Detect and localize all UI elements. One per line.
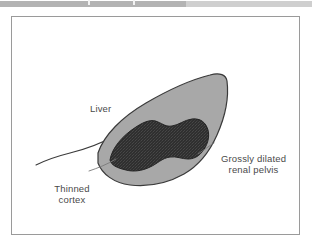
label-thinned-line2: cortex: [43, 194, 101, 205]
label-grossly-line1: Grossly dilated: [221, 153, 286, 164]
label-grossly-dilated-renal-pelvis: Grossly dilated renal pelvis: [221, 153, 286, 175]
strip-tick-1: [88, 0, 90, 5]
label-thinned-cortex: Thinned cortex: [43, 183, 101, 205]
strip-band-left: [0, 1, 186, 7]
label-grossly-line2: renal pelvis: [221, 164, 286, 175]
scanner-top-strip: [0, 0, 312, 8]
strip-tick-2: [133, 0, 135, 5]
figure-frame: Liver Grossly dilated renal pelvis Thinn…: [11, 16, 300, 235]
label-liver: Liver: [90, 103, 111, 114]
strip-band-right: [186, 1, 312, 7]
label-thinned-line1: Thinned: [54, 183, 89, 194]
